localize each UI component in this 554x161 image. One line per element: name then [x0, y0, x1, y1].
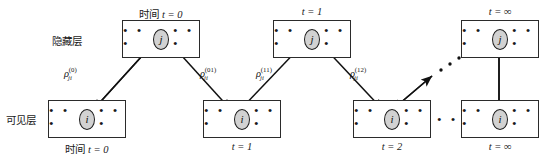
- node-visible-t0: i: [79, 109, 95, 130]
- diagram-figure: 隐藏层 可见层 时间 t = 0 • • • j • • • t = 1 • •…: [0, 0, 554, 161]
- box-visible-tinf: • • • i • • •: [461, 100, 539, 138]
- box-visible-t2-inner: • • • i • • •: [354, 101, 430, 137]
- caption-hidden-t0: 时间 t = 0: [122, 6, 200, 21]
- caption-visible-t2: t = 2: [353, 141, 431, 152]
- weight-label-rho-0: ρji(0): [64, 68, 81, 79]
- edge-dot-2: [448, 62, 451, 65]
- caption-visible-t0-text: 时间: [65, 144, 88, 155]
- node-visible-t1: i: [234, 109, 250, 130]
- weight-subscript: ji: [354, 74, 358, 81]
- weight-superscript: (11): [261, 66, 272, 73]
- side-label-hidden: 隐藏层: [52, 33, 82, 48]
- ellipsis-right: • • •: [99, 104, 125, 130]
- box-hidden-t1: • • • j • • •: [273, 20, 351, 58]
- box-hidden-tinf: • • • j • • •: [461, 20, 539, 58]
- node-hidden-t0: j: [153, 29, 169, 50]
- box-hidden-t0: • • • j • • •: [122, 20, 200, 58]
- box-visible-t0: • • • i • • •: [48, 100, 126, 138]
- caption-hidden-tinf: t = ∞: [461, 6, 539, 17]
- box-visible-tinf-inner: • • • i • • •: [462, 101, 538, 137]
- caption-visible-tinf: t = ∞: [461, 141, 539, 152]
- ellipsis-right: • • •: [512, 104, 538, 130]
- box-hidden-t1-inner: • • • j • • •: [274, 21, 350, 57]
- ellipsis-left: • • •: [49, 104, 75, 130]
- ellipsis-right: • • •: [254, 104, 280, 130]
- caption-visible-t0: 时间 t = 0: [48, 141, 126, 156]
- ellipsis-left: • • •: [354, 104, 380, 130]
- caption-hidden-t0-text: 时间: [139, 9, 162, 20]
- box-visible-t1: • • • i • • •: [203, 100, 281, 138]
- caption-hidden-t1: t = 1: [273, 6, 351, 17]
- node-hidden-t1: j: [304, 29, 320, 50]
- weight-superscript: (01): [205, 66, 216, 73]
- caption-visible-t1: t = 1: [203, 141, 281, 152]
- box-hidden-t0-inner: • • • j • • •: [123, 21, 199, 57]
- ellipsis-left: • • •: [462, 24, 488, 50]
- node-visible-t2: i: [384, 109, 400, 130]
- weight-superscript: (12): [355, 66, 366, 73]
- ellipsis-left: • • •: [123, 24, 149, 50]
- ellipsis-right: • • •: [324, 24, 350, 50]
- caption-visible-tinf-math: t = ∞: [489, 141, 512, 152]
- ellipsis-left: • • •: [274, 24, 300, 50]
- ellipsis-right: • • •: [512, 24, 538, 50]
- caption-visible-t1-math: t = 1: [232, 141, 253, 152]
- node-visible-tinf: i: [492, 109, 508, 130]
- weight-subscript: ji: [260, 74, 264, 81]
- box-visible-t0-inner: • • • i • • •: [49, 101, 125, 137]
- caption-visible-t2-math: t = 2: [382, 141, 403, 152]
- ellipsis-right: • • •: [173, 24, 199, 50]
- box-visible-t2: • • • i • • •: [353, 100, 431, 138]
- ellipsis-left: • • •: [204, 104, 230, 130]
- weight-subscript: ji: [204, 74, 208, 81]
- ellipsis-left: • • •: [462, 104, 488, 130]
- weight-label-rho-01: ρji(01): [200, 68, 220, 79]
- side-label-visible: 可见层: [6, 112, 36, 127]
- weight-superscript: (0): [69, 66, 77, 73]
- weight-label-rho-11: ρji(11): [256, 68, 276, 79]
- caption-hidden-t0-math: t = 0: [162, 9, 183, 20]
- caption-visible-t0-math: t = 0: [88, 144, 109, 155]
- weight-label-rho-12: ρji(12): [350, 68, 370, 79]
- edge-dot-1: [439, 68, 442, 71]
- box-hidden-tinf-inner: • • • j • • •: [462, 21, 538, 57]
- box-visible-t1-inner: • • • i • • •: [204, 101, 280, 137]
- weight-subscript: ji: [68, 74, 72, 81]
- caption-hidden-tinf-math: t = ∞: [489, 6, 512, 17]
- caption-hidden-t1-math: t = 1: [302, 6, 323, 17]
- ellipsis-right: • • •: [404, 104, 430, 130]
- node-hidden-tinf: j: [492, 29, 508, 50]
